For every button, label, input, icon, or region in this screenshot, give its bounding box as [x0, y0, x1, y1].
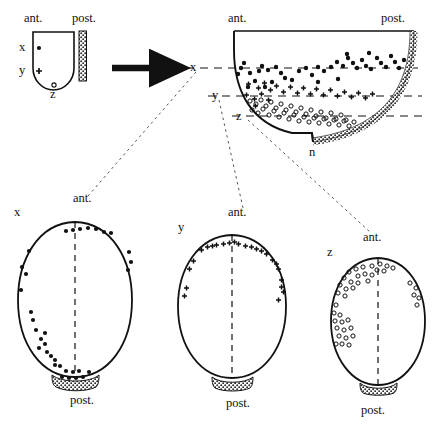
leader-line-z [248, 120, 370, 232]
inset-label-anterior: ant. [24, 12, 42, 25]
panel-y-group [178, 235, 286, 391]
main-label-anterior: ant. [228, 12, 246, 25]
panel-y-markers [182, 240, 286, 303]
panel-x-label: x [14, 206, 20, 219]
panel-x-label-anterior: ant. [73, 192, 91, 205]
main-label-posterior: post. [381, 12, 405, 25]
figure-canvas: ant. post. x y z ant. post. x y z n x an… [0, 0, 435, 427]
inset-label-posterior: post. [72, 12, 96, 25]
panel-y-hatched-base [212, 377, 253, 391]
panel-x-group [18, 222, 133, 391]
inset-label-level-z: z [50, 88, 56, 101]
main-label-level-y: y [212, 89, 218, 102]
inset-label-level-y: y [19, 64, 25, 77]
inset-hatched-band [79, 31, 87, 81]
inset-marker-y [36, 68, 42, 74]
main-markers-x [236, 51, 406, 89]
panel-z-label: z [327, 246, 333, 259]
panel-y-label-posterior: post. [226, 397, 250, 410]
main-inner-outline [234, 31, 313, 142]
main-section-group [88, 31, 422, 232]
panel-x-label-posterior: post. [70, 394, 94, 407]
main-notch [312, 133, 313, 142]
main-label-notch: n [309, 146, 315, 159]
panel-z-label-anterior: ant. [363, 231, 381, 244]
panel-y-label: y [178, 221, 184, 234]
inset-outline [33, 32, 74, 90]
panel-y-label-anterior: ant. [228, 206, 246, 219]
main-hatched-band [313, 31, 414, 142]
panel-z-group [331, 258, 425, 395]
main-label-level-z: z [236, 110, 242, 123]
panel-z-label-posterior: post. [361, 404, 385, 417]
panel-z-outline [331, 258, 425, 385]
inset-group [33, 31, 87, 90]
inset-marker-x [37, 46, 41, 50]
main-markers-y [244, 81, 375, 109]
main-label-level-x: x [190, 61, 196, 74]
main-hatched-band-inner-edge [312, 31, 410, 138]
inset-label-level-x: x [19, 41, 25, 54]
leader-line-x [88, 72, 196, 196]
main-markers-z [248, 98, 356, 128]
figure-svg [0, 0, 435, 427]
